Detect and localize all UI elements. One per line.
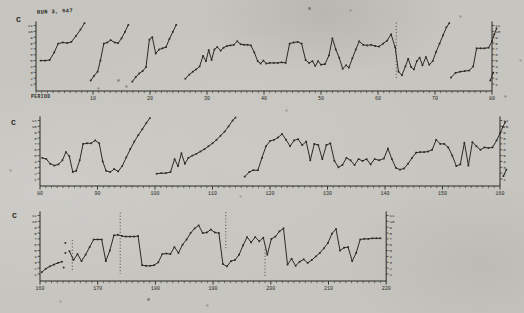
svg-text:6: 6 — [30, 53, 33, 57]
strip2-ylabel: C — [11, 118, 16, 127]
svg-text:9: 9 — [495, 36, 498, 40]
svg-text:10: 10 — [32, 220, 38, 224]
svg-text:1: 1 — [30, 83, 33, 87]
svg-text:160: 160 — [495, 191, 504, 197]
svg-text:100: 100 — [150, 191, 159, 197]
svg-text:6: 6 — [34, 243, 37, 247]
svg-text:4: 4 — [495, 65, 498, 69]
svg-text:80: 80 — [37, 191, 43, 197]
svg-text:10: 10 — [389, 220, 395, 224]
svg-text:9: 9 — [503, 131, 506, 135]
svg-text:8: 8 — [30, 42, 33, 46]
svg-text:180: 180 — [151, 286, 160, 292]
svg-text:150: 150 — [438, 191, 447, 197]
svg-text:11: 11 — [32, 214, 38, 218]
svg-text:4: 4 — [30, 65, 33, 69]
svg-text:6: 6 — [34, 148, 37, 152]
svg-text:10: 10 — [28, 30, 34, 34]
svg-text:11: 11 — [495, 24, 501, 28]
svg-text:2: 2 — [34, 267, 37, 271]
svg-text:11: 11 — [389, 214, 395, 218]
svg-text:220: 220 — [382, 286, 391, 292]
svg-text:5: 5 — [34, 249, 37, 253]
svg-text:130: 130 — [323, 191, 332, 197]
svg-text:6: 6 — [503, 148, 506, 152]
svg-text:8: 8 — [495, 42, 498, 46]
scanned-chart-figure: 1122334455667788991010111110203040506070… — [0, 0, 524, 313]
xaxis-title: PERIOD — [31, 94, 51, 99]
svg-text:5: 5 — [30, 59, 33, 63]
svg-text:120: 120 — [265, 191, 274, 197]
svg-text:3: 3 — [389, 261, 392, 265]
svg-text:5: 5 — [495, 59, 498, 63]
svg-text:1: 1 — [503, 178, 506, 182]
svg-text:7: 7 — [389, 237, 392, 241]
svg-text:80: 80 — [489, 96, 495, 102]
strip-charts-svg: 1122334455667788991010111110203040506070… — [0, 0, 524, 313]
svg-text:50: 50 — [318, 96, 324, 102]
svg-text:1: 1 — [389, 273, 392, 277]
svg-text:140: 140 — [380, 191, 389, 197]
svg-text:3: 3 — [30, 71, 33, 75]
strip1-ylabel: C — [16, 15, 21, 24]
svg-text:3: 3 — [34, 166, 37, 170]
svg-text:170: 170 — [93, 286, 102, 292]
svg-text:10: 10 — [32, 125, 38, 129]
scan-noise-specks — [0, 0, 1, 1]
svg-text:1: 1 — [34, 178, 37, 182]
svg-text:1: 1 — [34, 273, 37, 277]
svg-text:9: 9 — [34, 131, 37, 135]
svg-text:5: 5 — [389, 249, 392, 253]
svg-text:1: 1 — [495, 83, 498, 87]
svg-text:8: 8 — [34, 232, 37, 236]
svg-text:7: 7 — [34, 142, 37, 146]
svg-text:7: 7 — [34, 237, 37, 241]
svg-text:190: 190 — [209, 286, 218, 292]
svg-text:6: 6 — [495, 53, 498, 57]
svg-text:2: 2 — [495, 77, 498, 81]
svg-text:10: 10 — [90, 96, 96, 102]
svg-text:9: 9 — [389, 226, 392, 230]
svg-text:5: 5 — [503, 154, 506, 158]
svg-text:3: 3 — [34, 261, 37, 265]
svg-text:11: 11 — [32, 119, 38, 123]
svg-text:70: 70 — [432, 96, 438, 102]
svg-text:5: 5 — [34, 154, 37, 158]
svg-text:7: 7 — [30, 47, 33, 51]
svg-text:8: 8 — [503, 137, 506, 141]
svg-text:3: 3 — [495, 71, 498, 75]
svg-text:210: 210 — [324, 286, 333, 292]
svg-text:2: 2 — [389, 267, 392, 271]
svg-text:90: 90 — [94, 191, 100, 197]
svg-text:200: 200 — [266, 286, 275, 292]
svg-text:2: 2 — [30, 77, 33, 81]
svg-text:4: 4 — [34, 160, 37, 164]
svg-text:7: 7 — [503, 142, 506, 146]
svg-text:9: 9 — [30, 36, 33, 40]
svg-text:110: 110 — [208, 191, 217, 197]
svg-text:2: 2 — [34, 172, 37, 176]
svg-text:4: 4 — [34, 255, 37, 259]
svg-text:160: 160 — [35, 286, 44, 292]
svg-text:60: 60 — [375, 96, 381, 102]
svg-text:8: 8 — [389, 232, 392, 236]
svg-text:9: 9 — [34, 226, 37, 230]
svg-text:6: 6 — [389, 243, 392, 247]
svg-text:4: 4 — [389, 255, 392, 259]
strip3-ylabel: C — [12, 211, 17, 220]
svg-text:4: 4 — [503, 160, 506, 164]
svg-text:20: 20 — [147, 96, 153, 102]
svg-text:40: 40 — [261, 96, 267, 102]
svg-text:30: 30 — [204, 96, 210, 102]
svg-text:8: 8 — [34, 137, 37, 141]
svg-text:11: 11 — [28, 24, 34, 28]
svg-text:7: 7 — [495, 47, 498, 51]
